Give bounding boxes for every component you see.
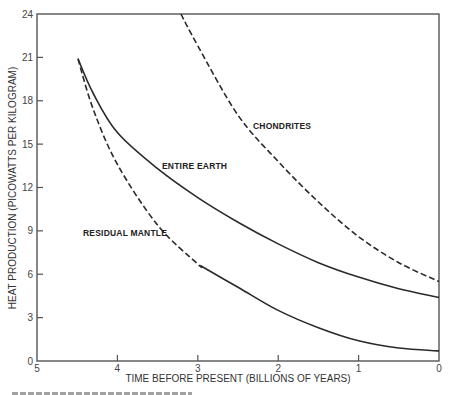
y-tick-label: 18 [22,95,34,106]
plot-frame [37,14,439,361]
curve-entire-earth [78,59,439,298]
x-axis-ticks: 543210 [34,355,442,374]
y-tick-label: 3 [27,312,33,323]
label-entire-earth: ENTIRE EARTH [162,161,227,171]
y-tick-label: 6 [27,269,33,280]
y-tick-label: 24 [22,9,34,20]
heat-production-chart: 03691215182124 543210 TIME BEFORE PRESEN… [0,0,452,395]
label-chondrites: CHONDRITES [253,121,311,131]
y-tick-label: 12 [22,182,34,193]
x-tick-label: 1 [356,363,362,374]
curves [78,14,439,351]
x-axis-title: TIME BEFORE PRESENT (BILLIONS OF YEARS) [125,373,350,384]
y-tick-label: 9 [27,225,33,236]
y-tick-label: 0 [27,356,33,367]
x-tick-label: 4 [115,363,121,374]
curve-residual-mantle-solid [200,266,439,351]
y-tick-label: 15 [22,139,34,150]
y-tick-label: 21 [22,52,34,63]
label-residual-mantle: RESIDUAL MANTLE [83,228,167,238]
curve-chondrites [181,14,439,282]
x-tick-label: 0 [436,363,442,374]
y-axis-ticks: 03691215182124 [22,9,43,367]
y-axis-title: HEAT PRODUCTION (PICOWATTS PER KILOGRAM) [7,67,18,309]
x-tick-label: 5 [34,363,40,374]
